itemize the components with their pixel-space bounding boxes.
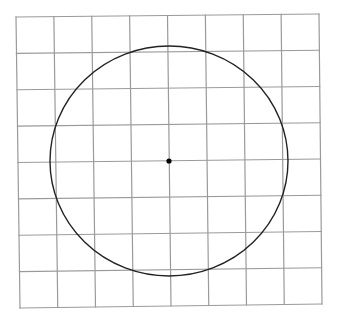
center-point	[166, 158, 171, 163]
diagram-canvas	[0, 0, 337, 326]
grid-circle-diagram	[0, 0, 337, 326]
